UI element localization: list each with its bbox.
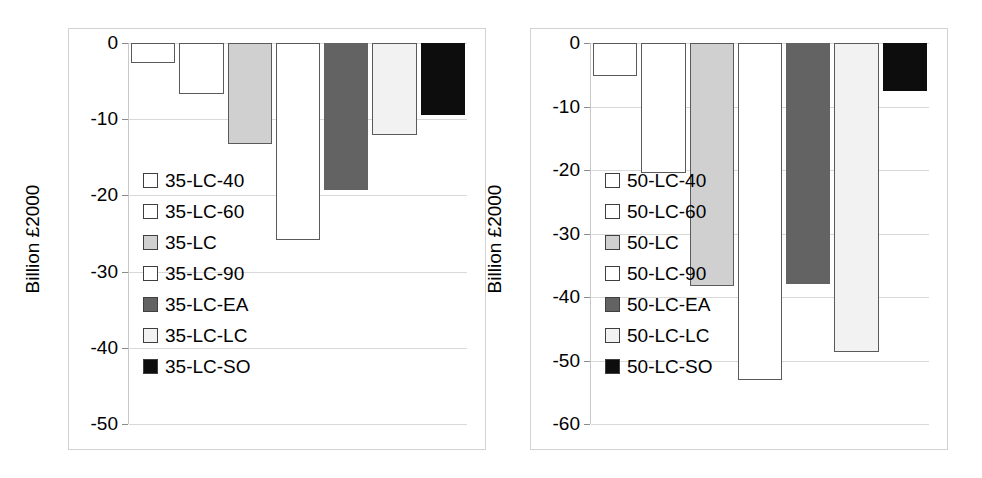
y-axis-tick: [122, 348, 128, 349]
bar: [421, 43, 465, 115]
legend-item[interactable]: 50-LC-40: [605, 165, 713, 196]
y-axis-tick-label: -50: [91, 413, 118, 435]
y-axis-tick-label: 0: [107, 32, 118, 54]
legend-item-label: 35-LC-EA: [165, 294, 248, 316]
legend-item-label: 35-LC-LC: [165, 325, 247, 347]
legend-item-label: 35-LC-40: [165, 170, 244, 192]
legend-item[interactable]: 35-LC-EA: [143, 289, 251, 320]
legend-swatch-icon: [605, 328, 620, 343]
y-axis-tick-label: -30: [553, 223, 580, 245]
y-axis-tick-label: 0: [569, 32, 580, 54]
y-axis-tick: [584, 361, 590, 362]
legend-item-label: 35-LC-SO: [165, 356, 251, 378]
legend-item[interactable]: 50-LC-EA: [605, 289, 713, 320]
legend-swatch-icon: [143, 297, 158, 312]
legend-item[interactable]: 35-LC-60: [143, 196, 251, 227]
y-axis-title-right: Billion £2000: [475, 29, 515, 449]
legend-item[interactable]: 50-LC-LC: [605, 320, 713, 351]
legend-item[interactable]: 35-LC-LC: [143, 320, 251, 351]
legend-item-label: 50-LC: [627, 232, 679, 254]
legend-swatch-icon: [605, 173, 620, 188]
y-axis-tick: [584, 107, 590, 108]
y-axis-title-right-text: Billion £2000: [484, 185, 506, 294]
legend-swatch-icon: [143, 204, 158, 219]
y-axis-tick-label: -30: [91, 261, 118, 283]
legend-item-label: 50-LC-90: [627, 263, 706, 285]
y-axis-tick-label: -10: [91, 108, 118, 130]
bar: [276, 43, 320, 240]
bar: [324, 43, 368, 190]
y-axis-title-left: Billion £2000: [13, 29, 53, 449]
y-axis-tick-label: -40: [553, 286, 580, 308]
bar: [738, 43, 782, 380]
legend-item[interactable]: 35-LC-90: [143, 258, 251, 289]
bar: [179, 43, 223, 94]
legend-item-label: 35-LC-60: [165, 201, 244, 223]
legend-swatch-icon: [143, 328, 158, 343]
y-axis-title-left-text: Billion £2000: [22, 185, 44, 294]
y-axis-tick: [122, 119, 128, 120]
legend-swatch-icon: [605, 297, 620, 312]
legend-item[interactable]: 50-LC-90: [605, 258, 713, 289]
bar: [372, 43, 416, 135]
legend-right: 50-LC-4050-LC-6050-LC50-LC-9050-LC-EA50-…: [605, 165, 713, 382]
legend-item-label: 50-LC-SO: [627, 356, 713, 378]
legend-swatch-icon: [605, 266, 620, 281]
legend-item-label: 50-LC-LC: [627, 325, 709, 347]
legend-swatch-icon: [143, 359, 158, 374]
legend-swatch-icon: [143, 266, 158, 281]
legend-item-label: 50-LC-EA: [627, 294, 710, 316]
y-axis-tick: [122, 195, 128, 196]
y-axis-tick-label: -60: [553, 413, 580, 435]
y-axis-tick: [122, 43, 128, 44]
legend-left: 35-LC-4035-LC-6035-LC35-LC-9035-LC-EA35-…: [143, 165, 251, 382]
legend-swatch-icon: [605, 235, 620, 250]
legend-item-label: 35-LC-90: [165, 263, 244, 285]
legend-item[interactable]: 50-LC-60: [605, 196, 713, 227]
legend-swatch-icon: [605, 204, 620, 219]
figure: Billion £2000 0-10-20-30-40-50 35-LC-403…: [0, 0, 982, 478]
y-axis-tick: [584, 170, 590, 171]
legend-item[interactable]: 50-LC-SO: [605, 351, 713, 382]
gridline: [591, 424, 929, 425]
bar: [834, 43, 878, 352]
legend-item[interactable]: 35-LC-SO: [143, 351, 251, 382]
y-axis-tick-label: -20: [553, 159, 580, 181]
legend-swatch-icon: [605, 359, 620, 374]
legend-item-label: 50-LC-40: [627, 170, 706, 192]
chart-panel-right: Billion £2000 0-10-20-30-40-50-60 50-LC-…: [530, 28, 948, 450]
legend-swatch-icon: [143, 235, 158, 250]
legend-item[interactable]: 35-LC: [143, 227, 251, 258]
y-axis-tick: [584, 234, 590, 235]
legend-item-label: 35-LC: [165, 232, 217, 254]
gridline: [129, 424, 467, 425]
legend-item[interactable]: 35-LC-40: [143, 165, 251, 196]
legend-swatch-icon: [143, 173, 158, 188]
y-axis-tick-label: -10: [553, 96, 580, 118]
y-axis-tick-label: -20: [91, 184, 118, 206]
y-axis-tick: [122, 424, 128, 425]
y-axis-tick: [584, 43, 590, 44]
y-axis-tick-label: -50: [553, 350, 580, 372]
y-axis-tick-label: -40: [91, 337, 118, 359]
bar: [131, 43, 175, 63]
bar: [641, 43, 685, 173]
bar: [786, 43, 830, 284]
legend-item-label: 50-LC-60: [627, 201, 706, 223]
y-axis-tick: [122, 272, 128, 273]
bar: [883, 43, 927, 91]
y-axis-tick: [584, 424, 590, 425]
chart-panel-left: Billion £2000 0-10-20-30-40-50 35-LC-403…: [68, 28, 486, 450]
bar: [228, 43, 272, 144]
y-axis-tick: [584, 297, 590, 298]
bar: [593, 43, 637, 76]
legend-item[interactable]: 50-LC: [605, 227, 713, 258]
